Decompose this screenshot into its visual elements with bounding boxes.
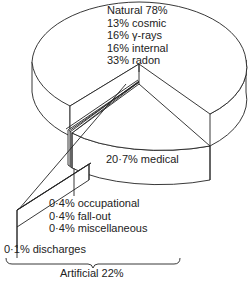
natural-label: Natural 78% 13% cosmic 16% γ-rays 16% in… (107, 4, 168, 67)
radon-label: 33% radon (107, 54, 168, 67)
fallout-label: 0·4% fall-out (49, 210, 147, 223)
medical-label: 20·7% medical (106, 153, 179, 166)
small-slices-label: 0·4% occupational 0·4% fall-out 0·4% mis… (49, 197, 147, 235)
occupational-label: 0·4% occupational (49, 197, 147, 210)
natural-total-label: Natural 78% (107, 4, 168, 17)
cosmic-label: 13% cosmic (107, 17, 168, 30)
artificial-total-label: Artificial 22% (60, 267, 124, 280)
gamma-rays-label: 16% γ-rays (107, 29, 168, 42)
miscellaneous-label: 0·4% miscellaneous (49, 222, 147, 235)
discharges-label: 0·1% discharges (4, 243, 86, 256)
internal-label: 16% internal (107, 42, 168, 55)
